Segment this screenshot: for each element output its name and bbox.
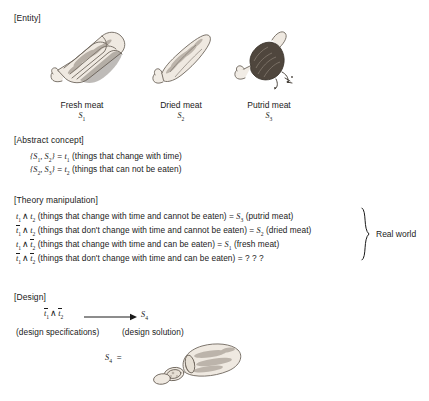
entity-label-3: Putrid meat [247,100,290,110]
entity-caption-2: Dried meat S2 [141,100,221,122]
abstract-gloss-2: (things that can not be eaten) [72,164,181,174]
section-label-theory-manipulation: [Theory manipulation] [14,195,98,205]
entity-symbol-1: S1 [42,111,122,122]
dried-meat-drawing [148,26,220,94]
entity-symbol-2: S2 [141,111,221,122]
entity-caption-1: Fresh meat S1 [42,100,122,122]
theory-result-3: (fresh meat) [234,239,279,249]
entity-symbol-3: S3 [229,111,309,122]
figure-canvas: [Entity] [0,0,429,401]
theory-line-2: t1∧t2 (things that don't change with tim… [16,225,311,237]
design-arrow-icon [84,312,138,322]
theory-gloss-2: (things that don't change with time and … [38,225,247,235]
design-equals-sign: = [117,352,122,362]
real-world-brace [360,207,372,261]
theory-gloss-4: (things that don't change with time and … [38,253,236,263]
design-term-1: t1 [44,308,49,320]
theory-result-4: ? ? ? [245,253,264,263]
section-label-design: [Design] [14,292,46,302]
theory-gloss-3: (things that change with time and can be… [38,239,215,249]
real-world-label: Real world [376,229,416,239]
theory-result-2: (dried meat) [266,225,311,235]
design-arrow-target: S4 [141,309,148,321]
fresh-meat-drawing [44,24,136,94]
design-solution-label: (design solution) [122,327,184,337]
design-solution-equation: S4 = [105,352,122,364]
entity-label-1: Fresh meat [61,100,104,110]
theory-line-1: t1∧t2 (things that change with time and … [16,211,293,223]
sausage-drawing [150,338,250,388]
design-term-2: t2 [58,308,63,320]
theory-line-4: t1∧t2 (things that don't change with tim… [16,253,264,265]
abstract-concept-line-1: {S1, S2} = t1 (things that change with t… [30,151,182,163]
putrid-meat-drawing [232,24,308,94]
abstract-gloss-1: (things that change with time) [72,151,182,161]
abstract-concept-line-2: {S2, S3} = t2 (things that can not be ea… [30,164,181,176]
entity-label-2: Dried meat [160,100,202,110]
theory-result-1: (putrid meat) [246,211,294,221]
clipped-caption-row [0,393,429,399]
design-formula: t1∧t2 [44,308,63,320]
theory-line-3: t1∧t2 (things that change with time and … [16,239,279,251]
design-specifications-label: (design specifications) [16,327,99,337]
entity-caption-3: Putrid meat S3 [229,100,309,122]
theory-gloss-1: (things that change with time and cannot… [38,211,227,221]
section-label-entity: [Entity] [14,13,41,23]
section-label-abstract-concept: [Abstract concept] [14,135,84,145]
